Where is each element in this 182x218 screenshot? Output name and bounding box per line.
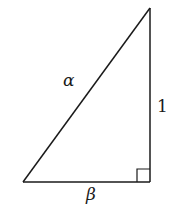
horizontal-leg-label: β bbox=[86, 186, 96, 203]
vertical-leg-label: 1 bbox=[157, 98, 168, 115]
hypotenuse-label: α bbox=[63, 72, 74, 89]
right-angle-marker bbox=[137, 169, 150, 182]
hypotenuse-edge bbox=[23, 8, 150, 182]
